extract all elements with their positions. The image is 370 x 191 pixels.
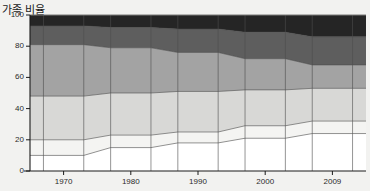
y-tick-label: 40 — [0, 104, 24, 113]
x-tick-label: 1980 — [111, 177, 151, 186]
y-tick-label: 80 — [0, 41, 24, 50]
x-tick-label: 2009 — [312, 177, 352, 186]
y-tick-label: 100 — [0, 10, 24, 19]
x-tick-label: 1990 — [178, 177, 218, 186]
plot-area — [0, 0, 370, 191]
y-tick-label: 20 — [0, 135, 24, 144]
x-tick-label: 2000 — [245, 177, 285, 186]
y-tick-label: 0 — [0, 166, 24, 175]
y-tick-label: 60 — [0, 72, 24, 81]
chart-container: 가족 비율 02040608010019701980199020002009 — [0, 0, 370, 191]
x-tick-label: 1970 — [44, 177, 84, 186]
